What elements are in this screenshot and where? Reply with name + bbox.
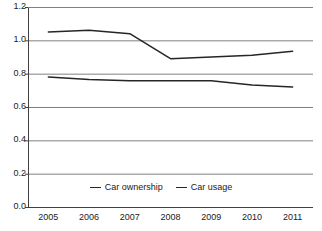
data-series-lines [48,30,292,87]
gridlines [28,8,313,175]
y-tick-marks [25,8,28,208]
line-chart: 0.00.20.40.60.81.01.2 200520062007200820… [0,0,322,231]
series-line-car-ownership [48,30,292,58]
plot-area [0,0,322,231]
series-line-car-usage [48,77,292,87]
